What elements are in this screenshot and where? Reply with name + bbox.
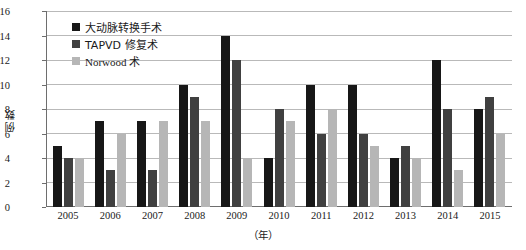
bar-group [300,11,342,207]
bar [221,36,230,208]
bar [286,121,295,207]
bar [275,109,284,207]
bar [496,134,505,208]
x-tick-label: 2011 [300,210,342,221]
y-tick-mark [42,60,46,61]
x-tick-label: 2008 [174,210,216,221]
bar-group [385,11,427,207]
bar [159,121,168,207]
x-tick-label: 2012 [342,210,384,221]
y-axis-title: 例数 [2,108,17,132]
bar [359,134,368,208]
legend-item: Norwood 术 [72,53,162,68]
bar [306,85,315,208]
bar [264,158,273,207]
y-tick-mark [42,207,46,208]
bar [243,158,252,207]
y-tick-mark [42,109,46,110]
x-tick-label: 2015 [469,210,511,221]
bar [485,97,494,207]
bar-group [216,11,258,207]
bar [443,109,452,207]
x-tick-label: 2014 [427,210,469,221]
legend-swatch-icon [72,57,80,65]
bar [328,109,337,207]
legend-swatch-icon [72,23,80,31]
bar [390,158,399,207]
bar [64,158,73,207]
legend-label: 大动脉转换手术 [85,19,162,35]
x-axis-title: （年） [0,227,526,242]
bar [117,134,126,208]
x-tick-label: 2009 [216,210,258,221]
legend-swatch-icon [72,40,80,48]
bar [454,170,463,207]
bar [53,146,62,207]
x-tick-label: 2010 [258,210,300,221]
bar [179,85,188,208]
x-axis-labels: 2005200620072008200920102011201220132014… [47,210,511,221]
bar-group [427,11,469,207]
bar [232,60,241,207]
bar-group [469,11,511,207]
bar [201,121,210,207]
legend-item: 大动脉转换手术 [72,19,162,34]
x-tick-label: 2013 [385,210,427,221]
legend-label: TAPVD 修复术 [85,36,158,52]
legend-label: Norwood 术 [85,53,140,69]
legend-item: TAPVD 修复术 [72,36,162,51]
x-tick-label: 2005 [47,210,89,221]
y-tick-mark [42,36,46,37]
bar-group [342,11,384,207]
bar [474,109,483,207]
bar [75,158,84,207]
legend: 大动脉转换手术 TAPVD 修复术 Norwood 术 [72,19,162,70]
bar [370,146,379,207]
bar [106,170,115,207]
y-tick-mark [42,183,46,184]
bar [432,60,441,207]
bar [190,97,199,207]
bar [348,85,357,208]
bar-group [258,11,300,207]
bar [412,158,421,207]
bar [137,121,146,207]
bar [317,134,326,208]
x-tick-label: 2006 [89,210,131,221]
grouped-bar-chart: 0246810121416 例数 20052006200720082009201… [0,0,526,250]
y-tick-mark [42,134,46,135]
bar [148,170,157,207]
bar-group [174,11,216,207]
y-tick-mark [42,85,46,86]
y-tick-mark [42,158,46,159]
x-tick-label: 2007 [131,210,173,221]
bar [401,146,410,207]
bar [95,121,104,207]
y-tick-mark [42,11,46,12]
